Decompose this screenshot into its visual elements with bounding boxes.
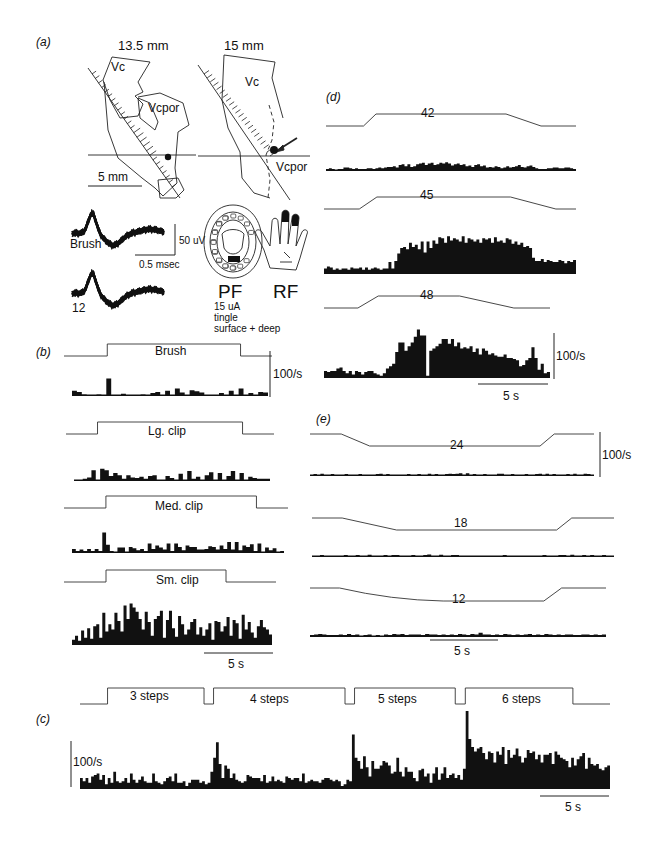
panel-e-scales (0, 0, 654, 847)
panel-e-time-scale-label: 5 s (454, 644, 470, 658)
panel-e-rate-scale-label: 100/s (602, 448, 631, 462)
